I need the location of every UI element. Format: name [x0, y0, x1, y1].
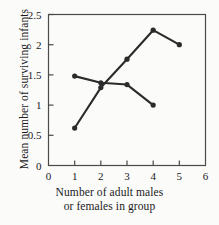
x-tick-label: 3 [124, 170, 130, 182]
data-point-rising-series [151, 28, 156, 33]
y-tick-label: 0.5 [28, 129, 42, 141]
x-tick-label: 2 [98, 170, 104, 182]
data-point-declining-series [72, 74, 77, 79]
x-axis-label-line-2: or females in group [0, 200, 219, 214]
data-point-declining-series [151, 103, 156, 108]
chart-figure: Mean number of surviving infants 00.511.… [0, 0, 219, 225]
data-point-declining-series [98, 80, 103, 85]
data-point-rising-series [98, 85, 103, 90]
y-tick-label: 1 [36, 99, 42, 111]
x-axis-label-line-1: Number of adult males [0, 186, 219, 200]
x-tick-label: 4 [150, 170, 156, 182]
y-axis-ticks: 00.511.522.5 [28, 9, 54, 172]
x-tick-label: 1 [72, 170, 78, 182]
y-tick-label: 2.5 [28, 9, 42, 21]
data-point-rising-series [124, 57, 129, 62]
y-tick-label: 0 [36, 160, 42, 172]
series-line-declining-series [75, 76, 154, 105]
x-axis-ticks: 0123456 [46, 161, 209, 182]
data-series-layer [72, 28, 182, 131]
x-axis-label: Number of adult males or females in grou… [0, 186, 219, 214]
y-tick-label: 2 [36, 39, 42, 51]
x-tick-label: 6 [203, 170, 209, 182]
data-point-rising-series [72, 125, 77, 130]
axes-frame [49, 15, 206, 166]
x-tick-label: 5 [177, 170, 183, 182]
y-tick-label: 1.5 [28, 69, 42, 81]
x-tick-label: 0 [46, 170, 52, 182]
data-point-rising-series [177, 42, 182, 47]
data-point-declining-series [124, 82, 129, 87]
